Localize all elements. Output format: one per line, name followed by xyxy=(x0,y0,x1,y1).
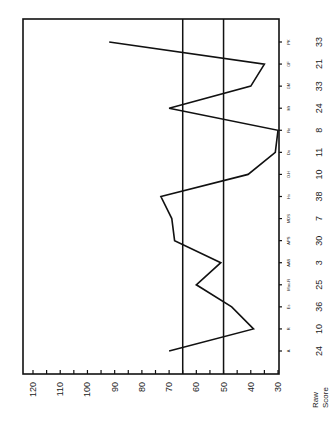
raw-score-value: 38 xyxy=(314,191,324,201)
raw-score-value: 33 xyxy=(314,81,324,91)
axis-tick-label: 100 xyxy=(82,382,92,397)
category-label: A xyxy=(286,349,291,352)
category-label: Es xyxy=(286,305,291,310)
category-label: R xyxy=(286,327,291,330)
category-axis: AREsMac-RAASAPSMDSHsO-HDoReMtGMGFPK xyxy=(279,39,291,352)
raw-score-value: 24 xyxy=(314,103,324,113)
category-label: GF xyxy=(286,61,291,67)
axis-tick-label: 80 xyxy=(137,382,147,392)
category-label: Mac-R xyxy=(286,279,291,291)
raw-score-value: 33 xyxy=(314,37,324,47)
raw-score-value: 10 xyxy=(314,324,324,334)
raw-score-value: 10 xyxy=(314,169,324,179)
raw-score-value: 30 xyxy=(314,236,324,246)
frame-rect xyxy=(23,19,279,374)
raw-score-value: 8 xyxy=(314,128,324,133)
raw-score-value: 3 xyxy=(314,260,324,265)
series-line xyxy=(109,42,278,351)
category-label: APS xyxy=(286,236,291,244)
category-label: Hs xyxy=(286,194,291,199)
plot-frame xyxy=(23,19,279,374)
raw-label-line2: Score xyxy=(321,387,330,408)
category-label: Re xyxy=(286,127,291,133)
axis-tick-label: 40 xyxy=(246,382,256,392)
raw-score-value: 7 xyxy=(314,216,324,221)
axis-tick-label: 90 xyxy=(110,382,120,392)
raw-score-value: 36 xyxy=(314,302,324,312)
axis-tick-label: 50 xyxy=(219,382,229,392)
raw-score-value: 24 xyxy=(314,346,324,356)
raw-score-value: 21 xyxy=(314,59,324,69)
category-label: AAS xyxy=(286,258,291,266)
raw-label-line1: Raw xyxy=(311,392,320,408)
axis-tick-label: 60 xyxy=(191,382,201,392)
reference-lines xyxy=(183,19,224,374)
axis-tick-label: 110 xyxy=(55,382,65,396)
category-label: Do xyxy=(286,149,291,155)
profile-chart: 12011010090807060504030 AREsMac-RAASAPSM… xyxy=(0,0,335,430)
category-label: Mt xyxy=(286,105,291,110)
category-label: O-H xyxy=(286,171,291,178)
category-label: PK xyxy=(286,39,291,45)
raw-score-value: 25 xyxy=(314,280,324,290)
axis-tick-label: 30 xyxy=(273,382,283,392)
axis-tick-label: 70 xyxy=(164,382,174,392)
category-label: GM xyxy=(286,83,291,89)
axis-tick-label: 120 xyxy=(28,382,38,397)
data-line xyxy=(109,42,278,351)
raw-score-value: 11 xyxy=(314,148,324,157)
category-label: MDS xyxy=(286,214,291,223)
raw-score-label: Raw Score xyxy=(311,387,330,408)
raw-score-row: 241036253307381011824332133 xyxy=(314,37,324,356)
